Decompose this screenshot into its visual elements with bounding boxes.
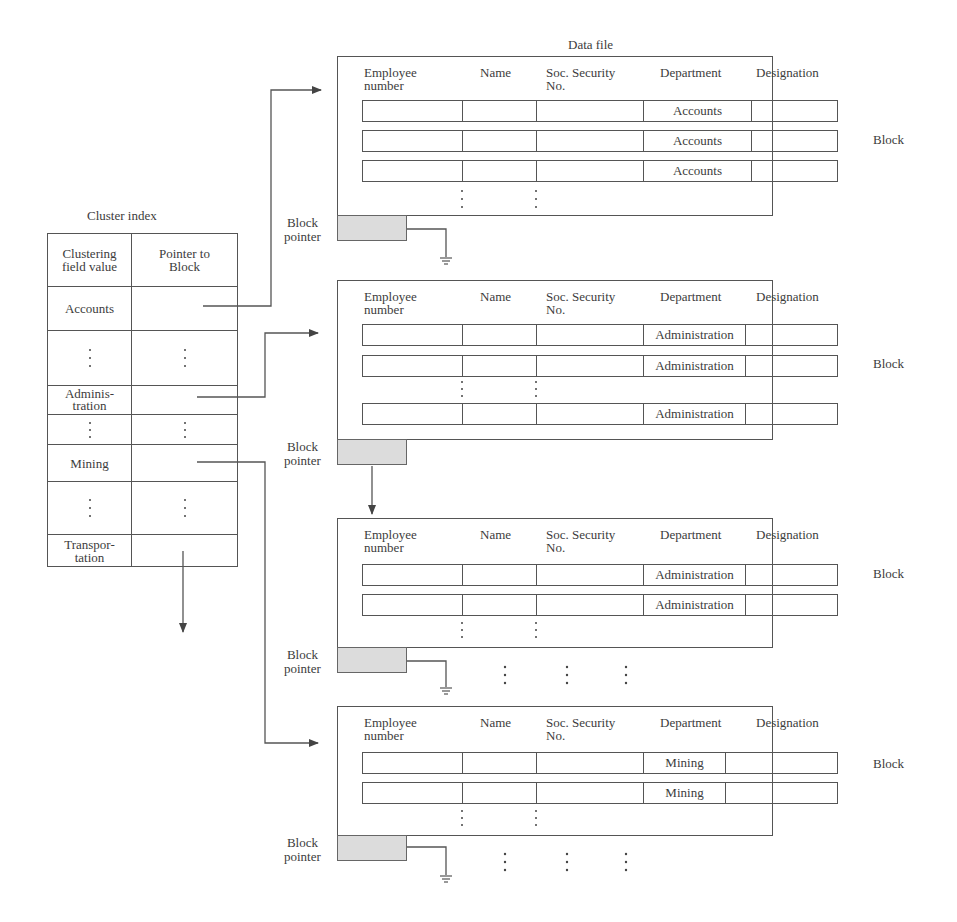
data-file-title: Data file xyxy=(568,38,613,52)
index-header-row: Clusteringfield value Pointer toBlock xyxy=(48,234,237,286)
header-line: number xyxy=(364,79,417,92)
cell-name xyxy=(463,325,537,345)
ellipsis-icon xyxy=(535,190,537,208)
data-block-3: Employeenumber Name Soc. SecurityNo. Dep… xyxy=(337,518,773,648)
cell-soc-security xyxy=(537,131,644,151)
cell-name xyxy=(463,404,537,424)
col-header-soc-security: Soc. SecurityNo. xyxy=(546,716,615,742)
index-pointer-cell xyxy=(132,445,237,481)
value-line: tation xyxy=(64,551,115,564)
record-row: Accounts xyxy=(362,130,838,152)
cell-employee-number xyxy=(363,595,463,615)
col-header-designation: Designation xyxy=(756,66,819,79)
record-row: Administration xyxy=(362,564,838,586)
ellipsis-icon xyxy=(461,622,463,638)
col-header-department: Department xyxy=(660,66,721,79)
header-line: number xyxy=(364,541,417,554)
col-header-soc-security: Soc. SecurityNo. xyxy=(546,528,615,554)
index-value: Accounts xyxy=(48,287,132,330)
index-value: Transpor-tation xyxy=(48,535,132,566)
cell-soc-security xyxy=(537,783,644,803)
index-row-mining: Mining xyxy=(48,444,237,481)
col-header-designation: Designation xyxy=(756,528,819,541)
record-row: Administration xyxy=(362,403,838,425)
label-line: Block xyxy=(284,648,321,662)
block-pointer-label: Blockpointer xyxy=(284,440,321,468)
index-value: Adminis-tration xyxy=(48,386,132,414)
col-header-soc-security: Soc. SecurityNo. xyxy=(546,290,615,316)
index-row-administration: Adminis-tration xyxy=(48,385,237,414)
col-header-name: Name xyxy=(480,716,511,729)
cell-name xyxy=(463,565,537,585)
record-row: Mining xyxy=(362,752,838,774)
block-pointer-label: Blockpointer xyxy=(284,648,321,676)
cell-name xyxy=(463,101,537,121)
block-pointer-box-3 xyxy=(337,647,407,673)
cell-department: Administration xyxy=(644,325,746,345)
ground-icon xyxy=(440,258,452,264)
block-label: Block xyxy=(873,132,904,148)
cell-name xyxy=(463,753,537,773)
data-block-1: Employeenumber Name Soc. SecurityNo. Dep… xyxy=(337,56,773,216)
index-pointer-cell xyxy=(132,535,237,566)
record-row: Mining xyxy=(362,782,838,804)
ellipsis-icon xyxy=(48,415,132,444)
cell-designation xyxy=(746,595,837,615)
col-header-soc-security: Soc. SecurityNo. xyxy=(546,66,615,92)
cell-employee-number xyxy=(363,161,463,181)
ellipsis-icon xyxy=(48,331,132,385)
ellipsis-icon xyxy=(132,331,237,385)
cell-soc-security xyxy=(537,404,644,424)
index-row-ellipsis xyxy=(48,481,237,534)
label-line: pointer xyxy=(284,230,321,244)
index-row-ellipsis xyxy=(48,414,237,444)
index-value: Mining xyxy=(48,445,132,481)
cell-department: Administration xyxy=(644,356,746,376)
label-line: pointer xyxy=(284,850,321,864)
cell-designation xyxy=(752,131,837,151)
cell-designation xyxy=(726,753,837,773)
block-pointer-box-4 xyxy=(337,835,407,861)
cell-designation xyxy=(752,101,837,121)
label-line: Block xyxy=(284,836,321,850)
value-line: tration xyxy=(65,400,114,412)
cluster-index-table: Clusteringfield value Pointer toBlock Ac… xyxy=(47,233,238,567)
index-row-ellipsis xyxy=(48,330,237,385)
ellipsis-icon xyxy=(535,622,537,638)
col-header-name: Name xyxy=(480,528,511,541)
header-line: Block xyxy=(159,260,210,273)
col-header-employee-number: Employeenumber xyxy=(364,528,417,554)
cell-designation xyxy=(752,161,837,181)
block-pointer-label: Blockpointer xyxy=(284,836,321,864)
ground-icon xyxy=(440,876,452,882)
ground-icon xyxy=(440,688,452,694)
header-line: number xyxy=(364,729,417,742)
cell-department: Accounts xyxy=(644,161,752,181)
index-row-transportation: Transpor-tation xyxy=(48,534,237,566)
cell-employee-number xyxy=(363,131,463,151)
cell-soc-security xyxy=(537,753,644,773)
cell-employee-number xyxy=(363,325,463,345)
cell-department: Administration xyxy=(644,595,746,615)
cell-designation xyxy=(746,356,837,376)
value-line: Transpor- xyxy=(64,538,115,551)
ellipsis-icon xyxy=(132,415,237,444)
col-header-designation: Designation xyxy=(756,716,819,729)
col-header-department: Department xyxy=(660,528,721,541)
cell-soc-security xyxy=(537,595,644,615)
header-line: No. xyxy=(546,303,615,316)
block-pointer-box-2 xyxy=(337,439,407,465)
cell-soc-security xyxy=(537,101,644,121)
cell-employee-number xyxy=(363,404,463,424)
header-line: No. xyxy=(546,541,615,554)
cell-name xyxy=(463,131,537,151)
ellipsis-icon xyxy=(48,482,132,534)
ellipsis-icon xyxy=(535,810,537,826)
ellipsis-icon xyxy=(461,190,463,208)
cell-designation xyxy=(746,565,837,585)
ellipsis-icon xyxy=(461,381,463,397)
cell-designation xyxy=(746,404,837,424)
cell-department: Mining xyxy=(644,753,726,773)
cell-department: Administration xyxy=(644,565,746,585)
block-label: Block xyxy=(873,756,904,772)
